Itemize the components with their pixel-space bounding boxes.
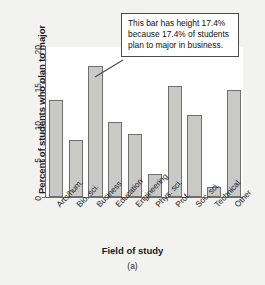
- figure-caption: (a): [0, 261, 265, 271]
- y-axis-tick-label: 5: [33, 158, 43, 163]
- y-axis-tick-label: 15: [33, 83, 43, 92]
- plot-area: 05101520: [45, 47, 243, 198]
- bar-slot: [125, 47, 145, 197]
- bar: [187, 115, 201, 197]
- bar-slot: [224, 47, 244, 197]
- callout-leader-line: [94, 60, 124, 78]
- bar-slot: [204, 47, 224, 197]
- bar-slot: [46, 47, 66, 197]
- bar-slot: [66, 47, 86, 197]
- callout-annotation: This bar has height 17.4% because 17.4% …: [121, 13, 239, 57]
- bar-slot: [165, 47, 185, 197]
- bar-series: [46, 47, 243, 197]
- y-axis-tick-label: 20: [33, 45, 43, 54]
- bar: [49, 100, 63, 197]
- bar: [88, 66, 102, 197]
- y-axis-tick-label: 0: [33, 196, 43, 201]
- bar-slot: [185, 47, 205, 197]
- y-axis-tick-label: 10: [33, 121, 43, 130]
- bar-chart-figure: Percent of students who plan to major 05…: [0, 0, 265, 285]
- x-axis-title: Field of study: [0, 245, 265, 256]
